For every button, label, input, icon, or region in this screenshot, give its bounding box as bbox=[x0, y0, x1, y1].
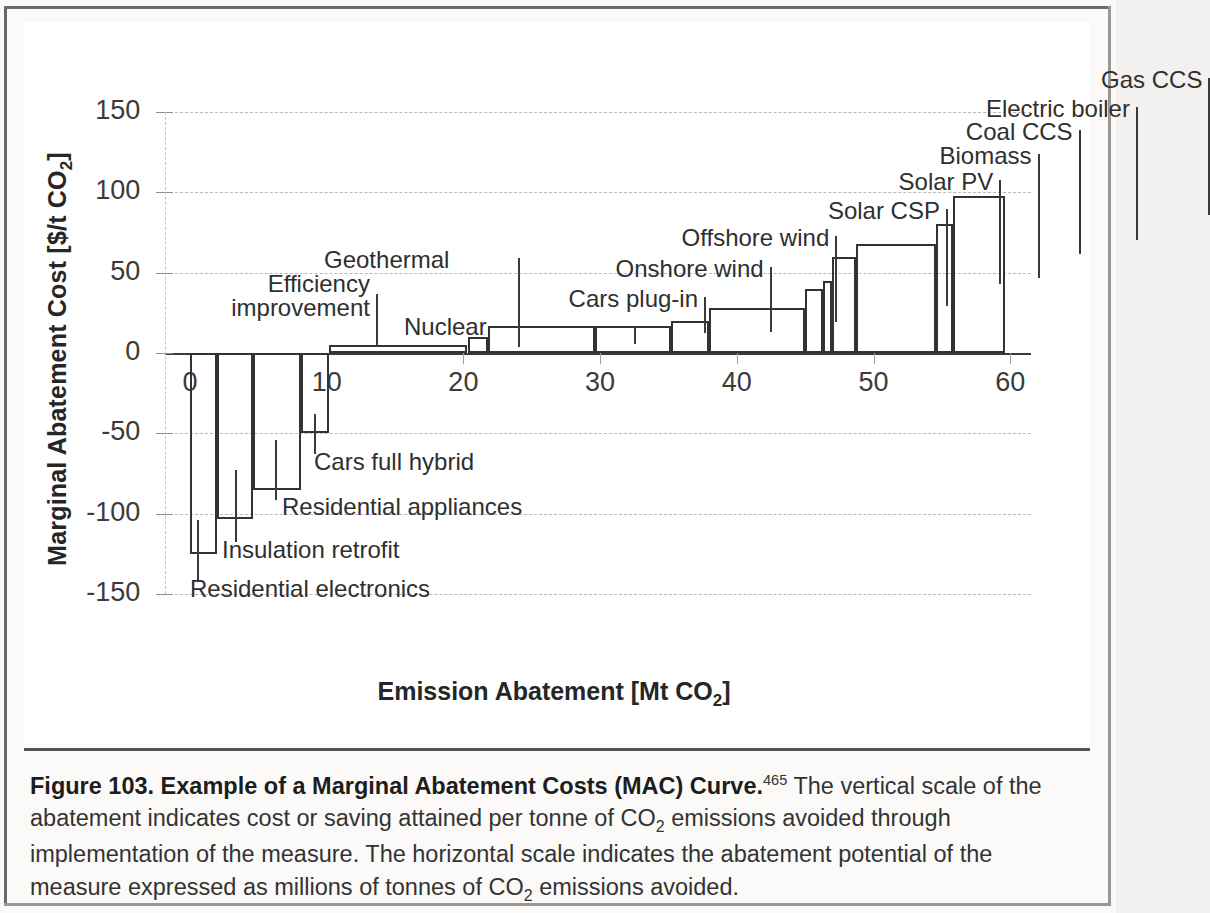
x-tickmark bbox=[1010, 353, 1011, 364]
bar-electric-boiler bbox=[856, 244, 937, 353]
annotation-line: Insulation retrofit bbox=[222, 538, 399, 562]
page-border-right bbox=[1108, 6, 1111, 906]
chart-panel: 150100500-50-100-1500102030405060Efficie… bbox=[24, 22, 1090, 744]
annotation-line: Electric boiler bbox=[986, 97, 1130, 121]
annotation-cars-plug-in: Cars plug-in bbox=[569, 287, 698, 311]
caption-reference: 465 bbox=[763, 772, 787, 788]
annotation-insulation-retrofit: Insulation retrofit bbox=[222, 538, 399, 562]
leader-line-solar-pv bbox=[999, 180, 1001, 284]
annotation-line: Offshore wind bbox=[682, 226, 830, 250]
bar-solar-pv bbox=[805, 289, 823, 353]
caption-divider bbox=[24, 748, 1090, 751]
annotation-line: Solar PV bbox=[899, 170, 994, 194]
caption-body-3: emissions avoided. bbox=[533, 874, 739, 900]
annotation-efficiency-improvement: Efficiencyimprovement bbox=[231, 272, 370, 321]
annotation-geothermal: Geothermal bbox=[324, 248, 449, 272]
bar-onshore-wind bbox=[595, 326, 672, 353]
annotation-cars-full-hybrid: Cars full hybrid bbox=[314, 450, 474, 474]
leader-line-electric-boiler bbox=[1136, 107, 1138, 240]
annotation-line: Solar CSP bbox=[828, 199, 940, 223]
caption-subscript-1: 2 bbox=[656, 818, 665, 835]
x-tickmark bbox=[463, 353, 464, 364]
x-tick-label: 30 bbox=[570, 367, 630, 398]
annotation-nuclear: Nuclear bbox=[404, 315, 487, 339]
y-axis-spine bbox=[165, 112, 166, 594]
bar-biomass bbox=[823, 281, 833, 353]
leader-line-cars-plug-in bbox=[704, 297, 706, 333]
caption-subscript-2: 2 bbox=[524, 886, 533, 903]
annotation-line: Nuclear bbox=[404, 315, 487, 339]
annotation-solar-pv: Solar PV bbox=[899, 170, 994, 194]
leader-line-residential-electronics bbox=[197, 520, 199, 582]
leader-line-nuclear bbox=[634, 327, 636, 344]
y-axis-title: Marginal Abatement Cost [$/t CO2] bbox=[43, 109, 77, 609]
annotation-residential-appliances: Residential appliances bbox=[282, 495, 522, 519]
annotation-gas-ccs: Gas CCS bbox=[1101, 68, 1202, 92]
annotation-line: Residential appliances bbox=[282, 495, 522, 519]
leader-line-onshore-wind bbox=[770, 267, 772, 332]
bar-unlabeled-16 bbox=[953, 196, 1005, 353]
leader-line-geothermal bbox=[518, 258, 520, 347]
annotation-line: Cars full hybrid bbox=[314, 450, 474, 474]
annotation-line: Efficiency bbox=[231, 272, 370, 296]
annotation-solar-csp: Solar CSP bbox=[828, 199, 940, 223]
bar-gas-ccs bbox=[936, 224, 952, 353]
annotation-line: Onshore wind bbox=[616, 257, 764, 281]
leader-line-coal-ccs bbox=[1079, 130, 1081, 254]
caption-title: Figure 103. Example of a Marginal Abatem… bbox=[30, 773, 763, 799]
leader-line-biomass bbox=[1038, 154, 1040, 278]
x-tick-label: 20 bbox=[433, 367, 493, 398]
leader-line-efficiency-improvement bbox=[376, 294, 378, 347]
annotation-coal-ccs: Coal CCS bbox=[966, 120, 1073, 144]
x-axis-title: Emission Abatement [Mt CO2] bbox=[184, 677, 924, 711]
annotation-electric-boiler: Electric boiler bbox=[986, 97, 1130, 121]
x-tick-label: 40 bbox=[707, 367, 767, 398]
x-tickmark bbox=[737, 353, 738, 364]
x-tick-label: 60 bbox=[980, 367, 1040, 398]
x-tickmark bbox=[874, 353, 875, 364]
annotation-line: Residential electronics bbox=[190, 577, 430, 601]
bar-solar-csp bbox=[709, 308, 805, 353]
y-tickmark bbox=[156, 594, 173, 595]
mac-curve-plot: 150100500-50-100-1500102030405060Efficie… bbox=[24, 22, 1090, 744]
x-tick-label: 50 bbox=[844, 367, 904, 398]
annotation-line: improvement bbox=[231, 296, 370, 320]
annotation-residential-electronics: Residential electronics bbox=[190, 577, 430, 601]
leader-line-residential-appliances bbox=[275, 440, 277, 500]
leader-line-solar-csp bbox=[946, 209, 948, 306]
annotation-line: Geothermal bbox=[324, 248, 449, 272]
figure-caption: Figure 103. Example of a Marginal Abatem… bbox=[30, 770, 1086, 906]
annotation-line: Cars plug-in bbox=[569, 287, 698, 311]
leader-line-insulation-retrofit bbox=[235, 470, 237, 542]
bar-efficiency-improvement bbox=[329, 345, 467, 353]
page-border-top bbox=[4, 6, 1110, 9]
bar-residential-appliances bbox=[253, 353, 301, 490]
leader-line-offshore-wind bbox=[835, 236, 837, 322]
annotation-line: Biomass bbox=[940, 144, 1032, 168]
annotation-biomass: Biomass bbox=[940, 144, 1032, 168]
bar-cars-plug-in bbox=[488, 326, 595, 353]
annotation-line: Gas CCS bbox=[1101, 68, 1202, 92]
y-gridline bbox=[165, 112, 1030, 113]
bar-residential-electronics bbox=[190, 353, 217, 554]
page-border-left bbox=[4, 6, 7, 906]
annotation-onshore-wind: Onshore wind bbox=[616, 257, 764, 281]
x-tickmark bbox=[600, 353, 601, 364]
annotation-line: Coal CCS bbox=[966, 120, 1073, 144]
annotation-offshore-wind: Offshore wind bbox=[682, 226, 830, 250]
